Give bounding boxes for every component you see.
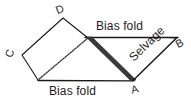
bias-fold-bottom-label: Bias fold	[49, 85, 96, 97]
fabric-fold-diagram: D C A B Bias fold Bias fold Selvage	[0, 0, 191, 102]
folded-panel-left	[22, 18, 88, 80]
bias-fold-top-label: Bias fold	[96, 20, 143, 32]
fold-shadow-wedge	[86, 37, 136, 81]
